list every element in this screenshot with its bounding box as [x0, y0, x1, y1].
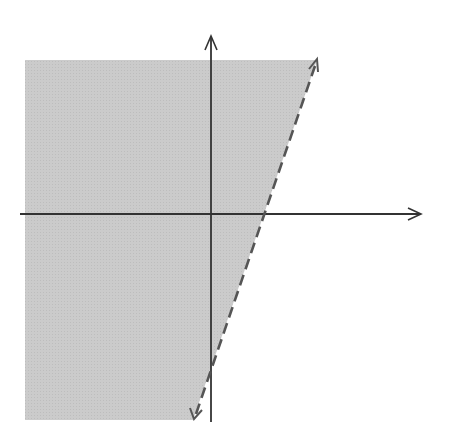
shaded-region [25, 60, 317, 420]
inequality-graph [0, 0, 455, 441]
